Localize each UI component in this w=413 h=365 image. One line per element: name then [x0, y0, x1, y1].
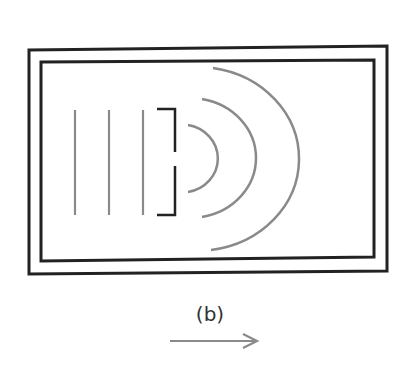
outer-frame [29, 46, 387, 274]
slit-barrier [157, 109, 175, 215]
ripple-tank-frame [29, 46, 387, 274]
barrier-lower [157, 166, 175, 215]
arrow-icon [170, 334, 257, 348]
inner-frame [41, 60, 374, 261]
figure-label: (b) [190, 302, 230, 326]
diffracted-wavefront-1 [188, 125, 218, 192]
diffracted-wavefront-2 [202, 99, 256, 217]
incident-plane-waves [75, 110, 143, 215]
diffracted-waves [188, 68, 299, 250]
barrier-upper [157, 109, 175, 152]
